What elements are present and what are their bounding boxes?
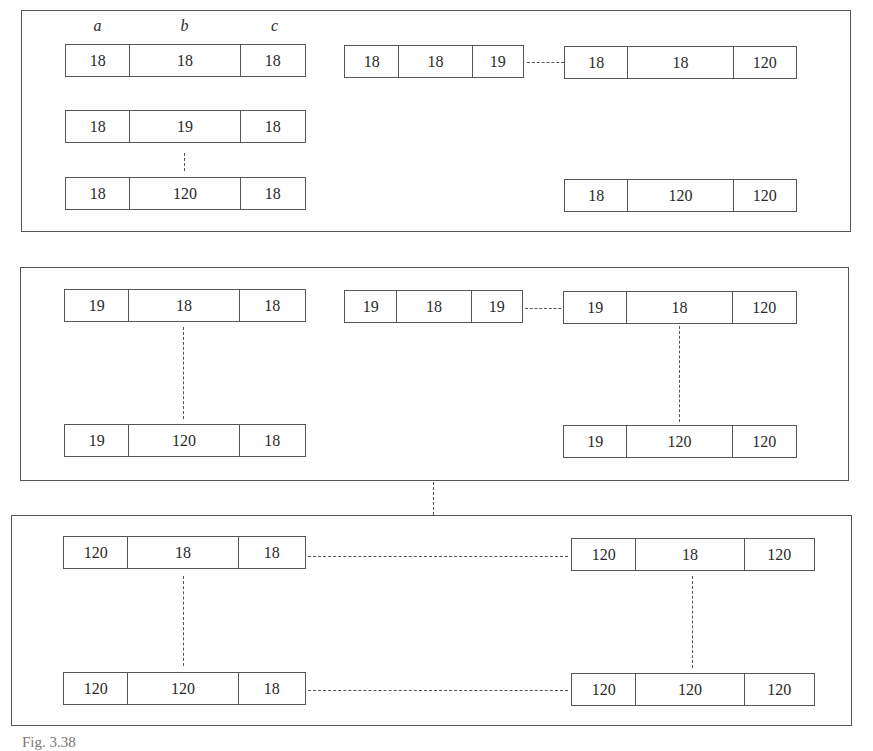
field-c: 120 bbox=[734, 47, 796, 78]
field-b: 18 bbox=[399, 46, 472, 77]
field-c: 18 bbox=[240, 425, 305, 456]
field-b: 120 bbox=[128, 673, 238, 704]
field-c: 120 bbox=[733, 426, 796, 457]
field-header-a: a bbox=[85, 17, 110, 35]
dashed-connector bbox=[527, 62, 569, 63]
field-b: 120 bbox=[636, 674, 744, 705]
key-record: 18 120 120 bbox=[564, 179, 797, 212]
key-record: 19 18 19 bbox=[344, 290, 523, 323]
dashed-connector bbox=[692, 576, 693, 668]
key-record: 120 120 120 bbox=[571, 673, 815, 706]
key-record: 19 18 18 bbox=[64, 289, 306, 322]
key-record: 120 18 18 bbox=[63, 536, 306, 569]
field-a: 18 bbox=[66, 178, 130, 209]
key-record: 120 18 120 bbox=[571, 538, 815, 571]
key-record: 18 18 120 bbox=[564, 46, 797, 79]
field-b: 18 bbox=[628, 47, 733, 78]
field-c: 18 bbox=[241, 178, 305, 209]
field-a: 18 bbox=[66, 45, 130, 76]
field-a: 120 bbox=[572, 674, 636, 705]
field-c: 18 bbox=[241, 111, 305, 142]
field-b: 18 bbox=[129, 290, 239, 321]
dashed-connector bbox=[183, 576, 184, 666]
field-b: 18 bbox=[128, 537, 238, 568]
field-b: 18 bbox=[130, 45, 240, 76]
field-a: 19 bbox=[345, 291, 397, 322]
field-a: 19 bbox=[65, 425, 129, 456]
field-b: 120 bbox=[130, 178, 240, 209]
field-header-b: b bbox=[172, 17, 197, 35]
key-record: 18 18 19 bbox=[344, 45, 524, 78]
field-b: 120 bbox=[129, 425, 239, 456]
key-record: 18 18 18 bbox=[65, 44, 306, 77]
field-c: 120 bbox=[745, 539, 814, 570]
key-record: 19 120 18 bbox=[64, 424, 306, 457]
field-c: 19 bbox=[473, 46, 523, 77]
field-c: 18 bbox=[240, 290, 305, 321]
field-b: 18 bbox=[627, 292, 732, 323]
dashed-connector bbox=[308, 556, 568, 557]
field-c: 18 bbox=[239, 673, 305, 704]
field-c: 18 bbox=[239, 537, 305, 568]
field-a: 18 bbox=[565, 180, 628, 211]
field-a: 19 bbox=[564, 426, 627, 457]
field-a: 120 bbox=[64, 537, 128, 568]
dashed-connector bbox=[433, 482, 434, 515]
dashed-connector bbox=[308, 690, 568, 691]
field-c: 18 bbox=[241, 45, 305, 76]
key-record: 120 120 18 bbox=[63, 672, 306, 705]
field-a: 120 bbox=[64, 673, 128, 704]
field-a: 19 bbox=[564, 292, 627, 323]
key-record: 19 120 120 bbox=[563, 425, 797, 458]
field-a: 18 bbox=[66, 111, 130, 142]
dashed-connector bbox=[184, 153, 185, 171]
field-a: 18 bbox=[345, 46, 399, 77]
field-c: 120 bbox=[733, 292, 796, 323]
field-c: 120 bbox=[734, 180, 796, 211]
field-a: 120 bbox=[572, 539, 636, 570]
dashed-connector bbox=[679, 326, 680, 422]
field-b: 120 bbox=[628, 180, 733, 211]
key-record: 18 120 18 bbox=[65, 177, 306, 210]
field-header-c: c bbox=[262, 17, 287, 35]
field-c: 120 bbox=[745, 674, 814, 705]
key-record: 18 19 18 bbox=[65, 110, 306, 143]
field-a: 18 bbox=[565, 47, 628, 78]
field-a: 19 bbox=[65, 290, 129, 321]
dashed-connector bbox=[183, 327, 184, 419]
field-b: 120 bbox=[627, 426, 732, 457]
dashed-connector bbox=[525, 308, 566, 309]
field-b: 19 bbox=[130, 111, 240, 142]
field-b: 18 bbox=[397, 291, 471, 322]
key-record: 19 18 120 bbox=[563, 291, 797, 324]
field-b: 18 bbox=[636, 539, 744, 570]
figure-caption: Fig. 3.38 bbox=[22, 734, 76, 751]
field-c: 19 bbox=[472, 291, 522, 322]
